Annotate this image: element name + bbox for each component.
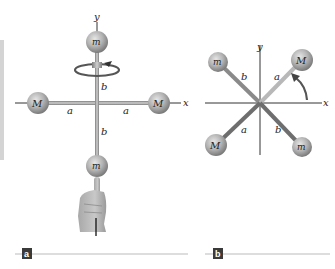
hand-icon — [78, 177, 106, 236]
mass-label-left-a: M — [31, 98, 43, 109]
mass-label-top-left-b: m — [213, 57, 222, 67]
mass-left-a: M — [27, 92, 49, 114]
vertical-rod-a — [95, 42, 99, 166]
mass-bottom-left-b: M — [205, 134, 227, 156]
mass-right-a: M — [148, 92, 170, 114]
mass-label-bottom-right-b: m — [297, 142, 306, 152]
figure-b: y x b a a b m M M m — [205, 41, 330, 259]
y-axis-label-a: y — [93, 11, 100, 22]
mass-label-bottom-a: m — [92, 161, 101, 171]
y-axis-label-b: y — [256, 41, 263, 52]
rotation-diagram: y x b a a b m M M — [0, 0, 335, 269]
panel-tag-b: b — [215, 249, 221, 259]
distance-label-top-right-b: a — [274, 71, 280, 82]
mass-label-top-a: m — [92, 37, 101, 47]
distance-label-right-a: a — [123, 105, 129, 116]
mass-label-bottom-left-b: M — [209, 140, 221, 151]
distance-label-upper-b: b — [101, 81, 107, 92]
x-axis-label-b: x — [323, 97, 329, 108]
figure-a: y x b a a b m M M — [15, 11, 189, 259]
distance-label-bottom-right-b: b — [275, 124, 281, 135]
distance-label-bottom-left-b: a — [241, 124, 247, 135]
mass-bottom-right-b: m — [292, 137, 312, 157]
rotation-arrow-icon-b — [291, 73, 307, 100]
mass-top-a: m — [86, 31, 108, 53]
mass-top-right-b: M — [291, 49, 313, 71]
distance-label-top-left-b: b — [241, 71, 247, 82]
mass-top-left-b: m — [208, 52, 228, 72]
distance-label-lower-b: b — [101, 126, 107, 137]
mass-label-top-right-b: M — [295, 55, 307, 66]
distance-label-left-a: a — [67, 105, 73, 116]
mass-label-right-a: M — [152, 98, 164, 109]
mass-bottom-a: m — [86, 155, 108, 177]
x-axis-label-a: x — [183, 97, 189, 108]
